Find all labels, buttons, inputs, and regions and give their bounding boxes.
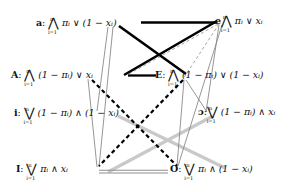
node-I-lower: i=1 (26, 176, 35, 181)
node-o[interactable]: ɔ:⋁ni=1 (1 − πᵢ) ∧ xᵢ (198, 105, 275, 118)
node-A[interactable]: A: ⋀ni=1 (1 − πᵢ) ∨ xᵢ (11, 68, 93, 81)
node-A-upper: n (26, 69, 29, 74)
edge-a-I (99, 27, 113, 167)
node-E-upper: n (170, 69, 173, 74)
node-e-lower: i=1 (221, 28, 230, 33)
node-E-separator: : (162, 69, 165, 80)
node-a-body: πᵢ ∨ (1 − xᵢ) (62, 17, 117, 28)
node-e-body: πᵢ ∨ xᵢ (235, 15, 263, 26)
diagram-canvas: a: ⋀ni=1 πᵢ ∨ (1 − xᵢ) e⋀ni=1 πᵢ ∨ xᵢ A:… (0, 0, 307, 192)
node-A-lower: i=1 (24, 82, 33, 87)
node-I-upper: n (28, 163, 31, 168)
node-E[interactable]: E: ⋀ni=1 (1 − πᵢ) ∨ (1 − xᵢ) (155, 68, 263, 81)
node-I-body: πᵢ ∧ xᵢ (40, 163, 68, 174)
node-i[interactable]: i: ⋁ni=1 (1 − πᵢ) ∧ (1 − xᵢ) (14, 106, 119, 119)
node-I-separator: : (20, 163, 23, 174)
node-e[interactable]: e⋀ni=1 πᵢ ∨ xᵢ (215, 14, 263, 27)
node-E-lower: i=1 (168, 82, 177, 87)
node-e-upper: n (223, 15, 226, 20)
node-E-body: (1 − πᵢ) ∨ (1 − xᵢ) (182, 69, 263, 80)
node-A-body: (1 − πᵢ) ∨ xᵢ (38, 69, 93, 80)
edge-A-I (88, 79, 97, 167)
edge-E-O (177, 80, 184, 166)
node-a[interactable]: a: ⋀ni=1 πᵢ ∨ (1 − xᵢ) (36, 16, 117, 29)
node-i-upper: n (25, 107, 28, 112)
node-a-separator: : (42, 17, 45, 28)
node-O[interactable]: O: ⋁ni=1 πᵢ ∧ (1 − xᵢ) (170, 162, 253, 175)
node-A-separator: : (18, 69, 21, 80)
node-i-lower: i=1 (23, 120, 32, 125)
node-O-tag: O (170, 163, 178, 174)
node-O-lower: i=1 (184, 176, 193, 181)
node-i-body: (1 − πᵢ) ∧ (1 − xᵢ) (37, 107, 118, 118)
node-O-body: πᵢ ∧ (1 − xᵢ) (198, 163, 253, 174)
node-o-body: (1 − πᵢ) ∧ xᵢ (221, 106, 276, 117)
edge-a-i (97, 27, 108, 111)
node-O-upper: n (186, 163, 189, 168)
node-I[interactable]: I: ⋁ni=1 πᵢ ∧ xᵢ (16, 162, 68, 175)
node-i-separator: : (18, 107, 21, 118)
node-a-upper: n (50, 17, 53, 22)
node-o-lower: i=1 (207, 119, 216, 124)
node-o-upper: n (209, 106, 212, 111)
edge-e-O (178, 25, 222, 166)
node-a-lower: i=1 (48, 30, 57, 35)
node-O-separator: : (178, 163, 181, 174)
